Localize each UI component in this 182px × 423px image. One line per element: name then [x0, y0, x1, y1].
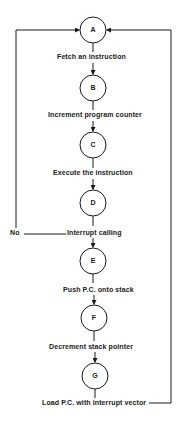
step-interrupt-calling: Interrupt calling [67, 229, 122, 236]
step-execute: Execute the instruction [53, 169, 133, 176]
flowchart-lines [0, 0, 182, 423]
node-g: G [82, 372, 108, 379]
node-f: F [81, 314, 107, 321]
step-fetch: Fetch an instruction [57, 53, 126, 60]
node-a: A [80, 26, 106, 33]
node-e: E [80, 257, 106, 264]
step-increment-pc: Increment program counter [48, 111, 142, 118]
branch-no-label: No [10, 229, 20, 236]
node-d: D [80, 199, 106, 206]
step-push-pc: Push P.C. onto stack [63, 286, 134, 293]
step-load-pc: Load P.C. with interrupt vector [42, 399, 146, 406]
node-b: B [80, 84, 106, 91]
node-c: C [80, 141, 106, 148]
step-decrement-sp: Decrement stack pointer [49, 343, 133, 350]
